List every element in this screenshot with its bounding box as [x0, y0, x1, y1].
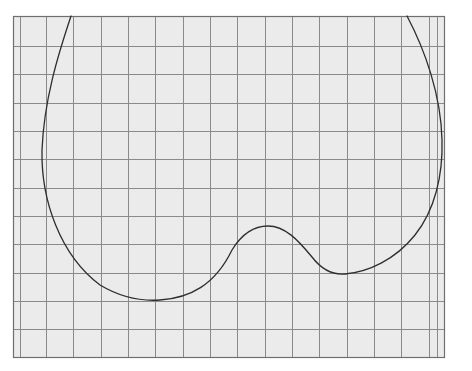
diagram-canvas: [0, 0, 472, 371]
graph-paper: [13, 16, 444, 357]
graph-paper-diagram: [0, 0, 472, 371]
